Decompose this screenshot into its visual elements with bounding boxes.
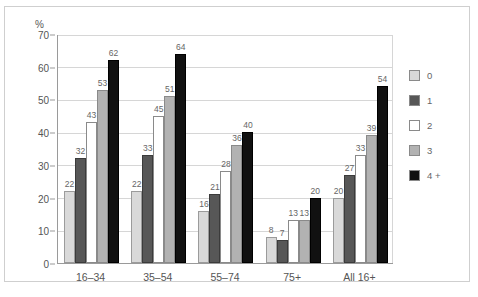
bar[interactable]: 20 (310, 198, 321, 263)
legend-item-label: 4 + (427, 170, 440, 181)
bar-value-label: 22 (132, 179, 141, 189)
x-axis-category-label: 55–74 (210, 271, 239, 283)
bar-value-label: 20 (310, 186, 319, 196)
y-axis-tick-mark (50, 264, 55, 265)
bar-value-label: 39 (367, 123, 376, 133)
bar[interactable]: 45 (153, 116, 164, 263)
legend-swatch-icon (409, 95, 420, 106)
bar-group-bars: 87131320 (266, 35, 321, 263)
bar[interactable]: 20 (333, 198, 344, 263)
bar-value-label: 64 (176, 42, 185, 52)
bar-value-label: 27 (345, 163, 354, 173)
bar-group-bars: 1621283640 (198, 35, 253, 263)
legend-item[interactable]: 2 (409, 119, 469, 131)
bar-group: 2027333954 (327, 35, 394, 263)
bar[interactable]: 32 (75, 158, 86, 263)
bar-value-label: 16 (199, 199, 208, 209)
legend-item[interactable]: 4 + (409, 169, 469, 181)
legend-item-label: 2 (427, 120, 432, 131)
bar[interactable]: 39 (366, 135, 377, 263)
bar[interactable]: 33 (355, 155, 366, 263)
bar-value-label: 22 (65, 179, 74, 189)
bar-value-label: 8 (269, 225, 274, 235)
bar-value-label: 32 (76, 146, 85, 156)
bar[interactable]: 62 (108, 60, 119, 263)
bar-value-label: 13 (288, 208, 297, 218)
bar[interactable]: 40 (242, 132, 253, 263)
x-axis: 16–3435–5455–7475+All 16+ (57, 265, 393, 287)
legend-swatch-icon (409, 145, 420, 156)
bar-value-label: 43 (87, 110, 96, 120)
y-axis-tick-label: 70 (38, 30, 49, 41)
y-axis-tick-label: 50 (38, 95, 49, 106)
bar-value-label: 36 (232, 133, 241, 143)
y-axis-tick-mark (50, 100, 55, 101)
bar[interactable]: 28 (220, 171, 231, 263)
legend-swatch-icon (409, 70, 420, 81)
bar-value-label: 20 (334, 186, 343, 196)
bar[interactable]: 7 (277, 240, 288, 263)
bar[interactable]: 53 (97, 90, 108, 263)
bar[interactable]: 13 (299, 220, 310, 263)
y-axis-tick-mark (50, 231, 55, 232)
bar[interactable]: 22 (64, 191, 75, 263)
bar-groups: 2232435362223345516416212836408713132020… (58, 35, 393, 263)
bar-value-label: 45 (154, 104, 163, 114)
y-axis-tick-label: 0 (43, 259, 49, 270)
chart-legend: 01234 + (409, 69, 469, 194)
bar-group-bars: 2232435362 (64, 35, 119, 263)
x-axis-category-label: 75+ (283, 271, 301, 283)
x-axis-category-label: 35–54 (143, 271, 172, 283)
bar-group: 2232435362 (58, 35, 125, 263)
bar[interactable]: 22 (131, 191, 142, 263)
legend-item-label: 0 (427, 70, 432, 81)
bar[interactable]: 43 (86, 122, 97, 263)
y-axis-tick-label: 10 (38, 226, 49, 237)
y-axis-tick-label: 40 (38, 128, 49, 139)
bar-value-label: 54 (378, 74, 387, 84)
y-axis-unit-label: % (35, 19, 44, 30)
y-axis-tick-mark (50, 133, 55, 134)
y-axis-tick-mark (50, 35, 55, 36)
bar-group-bars: 2027333954 (333, 35, 388, 263)
bar[interactable]: 51 (164, 96, 175, 263)
bar-group-bars: 2233455164 (131, 35, 186, 263)
bar-value-label: 53 (98, 78, 107, 88)
bar[interactable]: 13 (288, 220, 299, 263)
bar[interactable]: 54 (377, 86, 388, 263)
bar-value-label: 51 (165, 84, 174, 94)
bar-value-label: 40 (243, 120, 252, 130)
bar-group: 2233455164 (125, 35, 192, 263)
y-axis: 010203040506070 (5, 35, 55, 265)
y-axis-tick-label: 20 (38, 193, 49, 204)
bar-value-label: 13 (299, 208, 308, 218)
legend-item[interactable]: 1 (409, 94, 469, 106)
x-axis-category-label: All 16+ (343, 271, 375, 283)
bar[interactable]: 8 (266, 237, 277, 263)
bar-group: 87131320 (260, 35, 327, 263)
bar[interactable]: 27 (344, 175, 355, 263)
bar[interactable]: 21 (209, 194, 220, 263)
bar-value-label: 62 (109, 48, 118, 58)
bar-value-label: 33 (143, 143, 152, 153)
legend-item[interactable]: 3 (409, 144, 469, 156)
bar-group: 1621283640 (192, 35, 259, 263)
legend-item[interactable]: 0 (409, 69, 469, 81)
bar[interactable]: 33 (142, 155, 153, 263)
bar[interactable]: 16 (198, 211, 209, 263)
y-axis-tick-mark (50, 165, 55, 166)
bar-value-label: 33 (356, 143, 365, 153)
legend-item-label: 3 (427, 145, 432, 156)
bar-value-label: 7 (280, 228, 285, 238)
bar[interactable]: 36 (231, 145, 242, 263)
y-axis-tick-label: 60 (38, 62, 49, 73)
bar-value-label: 28 (221, 159, 230, 169)
y-axis-tick-label: 30 (38, 160, 49, 171)
bar-value-label: 21 (210, 182, 219, 192)
x-axis-category-label: 16–34 (76, 271, 105, 283)
y-axis-tick-mark (50, 198, 55, 199)
bar[interactable]: 64 (175, 54, 186, 263)
legend-swatch-icon (409, 170, 420, 181)
y-axis-tick-mark (50, 67, 55, 68)
legend-item-label: 1 (427, 95, 432, 106)
